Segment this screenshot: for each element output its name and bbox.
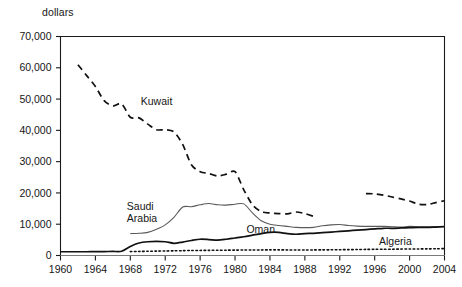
x-axis-tick-label: 1972 (154, 263, 178, 275)
x-axis-tick-label: 1964 (84, 263, 108, 275)
line-chart-plot: 010,00020,00030,00040,00050,00060,00070,… (0, 0, 462, 287)
series-line-saudi-arabia (130, 203, 444, 233)
y-axis-tick-marks (56, 37, 61, 256)
x-axis-tick-label: 1960 (49, 263, 73, 275)
x-axis-tick-label: 1992 (328, 263, 352, 275)
series-line-kuwait (366, 194, 445, 205)
y-axis-tick-label: 30,000 (19, 155, 51, 167)
y-axis-tick-label: 40,000 (19, 124, 51, 136)
series-line-algeria (130, 249, 444, 252)
x-axis-tick-label: 1968 (119, 263, 143, 275)
series-label-algeria: Algeria (379, 235, 412, 247)
y-axis-tick-label: 0 (46, 249, 52, 261)
series-label-kuwait: Kuwait (141, 95, 173, 107)
x-axis-tick-label: 1984 (258, 263, 282, 275)
y-axis-tick-label: 50,000 (19, 93, 51, 105)
x-axis-tick-label: 1980 (223, 263, 247, 275)
series-label-oman: Oman (246, 223, 275, 235)
x-axis-tick-label: 1976 (188, 263, 212, 275)
x-axis-tick-label: 2000 (398, 263, 422, 275)
x-axis-tick-labels: 1960196419681972197619801984198819921996… (49, 263, 457, 275)
y-axis-tick-labels: 010,00020,00030,00040,00050,00060,00070,… (19, 30, 51, 261)
chart-container: dollars 010,00020,00030,00040,00050,0006… (0, 0, 462, 287)
series-inline-labels: KuwaitSaudiArabiaOmanAlgeria (127, 95, 412, 246)
series-label-saudi-arabia: SaudiArabia (127, 200, 158, 224)
y-axis-tick-label: 70,000 (19, 30, 51, 42)
x-axis-tick-label: 1996 (363, 263, 387, 275)
y-axis-tick-label: 10,000 (19, 218, 51, 230)
x-axis-tick-label: 2004 (433, 263, 457, 275)
x-axis-tick-marks (61, 256, 445, 261)
x-axis-tick-label: 1988 (293, 263, 317, 275)
y-axis-tick-label: 60,000 (19, 61, 51, 73)
series-line-kuwait (78, 65, 314, 217)
y-axis-tick-label: 20,000 (19, 187, 51, 199)
